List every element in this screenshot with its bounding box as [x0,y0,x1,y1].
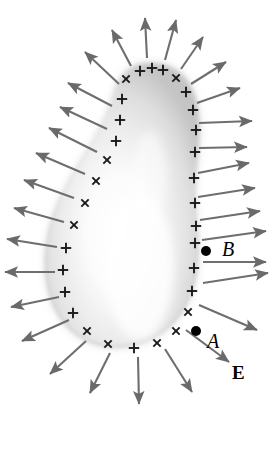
surface-highlight-upper [133,131,167,219]
point-b-label: B [222,238,234,260]
field-line-arrow [138,357,139,404]
field-line-shaft [199,147,247,148]
field-diagram-canvas: BAE [0,0,280,458]
point-a-label: A [205,330,220,352]
field-line-arrow [199,147,247,148]
electric-field-figure: BAE [0,0,280,458]
field-line-shaft [138,357,139,404]
point-b-dot [201,246,211,256]
point-a-dot [191,326,201,336]
field-label-e: E [232,362,245,383]
surface-highlight [106,196,174,340]
